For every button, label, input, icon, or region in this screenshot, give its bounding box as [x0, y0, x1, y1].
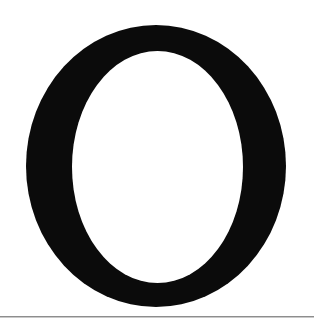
letter-o-counter [72, 51, 243, 283]
scanned-page: O [0, 0, 314, 324]
page-margin-below-rule [0, 318, 314, 324]
glyph-area: O [0, 0, 314, 316]
glyph-character-text: O [0, 0, 1, 1]
capital-letter-o-glyph [26, 25, 286, 307]
